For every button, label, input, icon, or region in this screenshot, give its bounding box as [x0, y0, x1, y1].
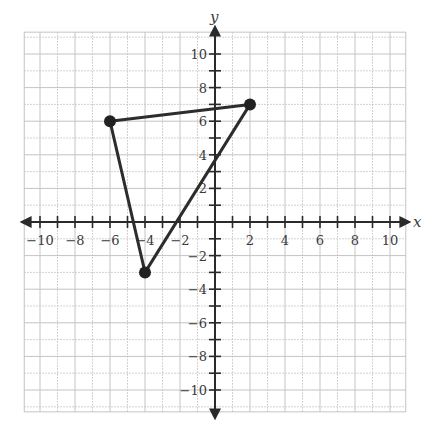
x-tick-label: −10 [26, 233, 53, 248]
y-tick-label: 4 [199, 148, 207, 163]
y-tick-label: −8 [188, 349, 207, 364]
x-tick-label: 2 [246, 233, 254, 248]
y-tick-label: 6 [199, 114, 207, 129]
x-tick-label: −8 [65, 233, 84, 248]
y-tick-label: −4 [188, 282, 207, 297]
y-tick-label: −10 [180, 383, 207, 398]
y-tick-label: −6 [188, 316, 207, 331]
y-tick-label: 10 [190, 47, 207, 62]
y-tick-label: −2 [188, 249, 207, 264]
vertex-point [244, 98, 256, 110]
x-tick-label: 10 [382, 233, 399, 248]
x-tick-label: −2 [170, 233, 189, 248]
y-tick-label: 8 [199, 81, 207, 96]
x-axis-label: x [413, 213, 422, 231]
y-axis-label: y [209, 8, 219, 26]
x-tick-label: 8 [351, 233, 359, 248]
x-tick-label: 6 [316, 233, 324, 248]
vertex-point [139, 266, 151, 278]
x-tick-label: 4 [281, 233, 289, 248]
x-tick-label: −6 [100, 233, 119, 248]
vertex-point [104, 115, 116, 127]
coordinate-plane: −10−8−6−4−2246810108642−2−4−6−8−10 x y [0, 0, 439, 429]
